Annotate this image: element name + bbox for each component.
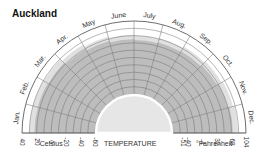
celsius-tick: 40 (19, 138, 26, 146)
month-label: Jan. (12, 110, 21, 124)
celsius-label: °Celsius (37, 140, 63, 147)
celsius-tick: -20 (63, 137, 70, 147)
month-label: Feb. (18, 80, 30, 96)
fahrenheit-label: °Fahrenheit (196, 140, 232, 147)
chart-title: Auckland (12, 8, 57, 19)
fahrenheit-tick: 104 (243, 137, 250, 148)
temperature-label: TEMPERATURE (104, 140, 156, 147)
fahrenheit-tick: -40 (185, 137, 192, 147)
month-label: July (143, 11, 157, 21)
month-label: Dec. (247, 110, 256, 125)
temperature-radial-chart: Jan.Feb.Mar.Apr.MayJuneJulyAug.Sep.Oct.N… (0, 0, 270, 155)
celsius-tick: -60 (92, 137, 99, 147)
month-label: June (111, 11, 127, 20)
month-label: Sep. (198, 32, 214, 47)
month-label: Nov. (238, 80, 250, 96)
month-label: Apr. (55, 32, 70, 46)
celsius-tick: -40 (78, 137, 85, 147)
